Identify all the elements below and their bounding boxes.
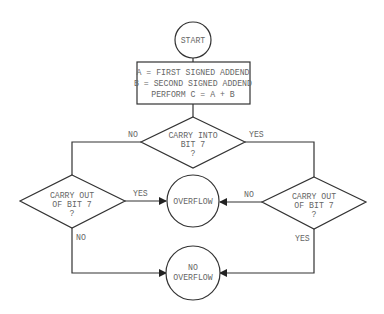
edge-into-yes	[245, 142, 314, 177]
edge-into-no	[72, 142, 141, 175]
overflow-label: OVERFLOW	[173, 197, 212, 206]
edge-label-left-no: NO	[76, 233, 86, 242]
carry-into-line-3: ?	[191, 149, 196, 158]
right-line-3: ?	[312, 210, 317, 219]
flowchart-canvas: START A = FIRST SIGNED ADDEND B = SECOND…	[0, 0, 384, 314]
process-line-2: B = SECOND SIGNED ADDEND	[134, 79, 252, 88]
process-box: A = FIRST SIGNED ADDEND B = SECOND SIGNE…	[134, 62, 252, 104]
carry-into-line-2: BIT 7	[181, 140, 206, 149]
process-line-1: A = FIRST SIGNED ADDEND	[136, 68, 249, 77]
no-overflow-line-1: NO	[188, 263, 198, 272]
left-line-1: CARRY OUT	[50, 191, 94, 200]
left-line-2: OF BIT 7	[52, 200, 91, 209]
edge-label-into-no: NO	[128, 130, 138, 139]
process-line-3: PERFORM C = A + B	[151, 90, 235, 99]
right-line-2: OF BIT 7	[294, 201, 333, 210]
left-line-3: ?	[70, 209, 75, 218]
edge-label-left-yes: YES	[133, 189, 148, 198]
carry-out-left-decision: CARRY OUT OF BIT 7 ?	[20, 175, 125, 228]
edge-left-no	[72, 228, 166, 273]
carry-out-right-decision: CARRY OUT OF BIT 7 ?	[262, 177, 366, 229]
edge-label-right-yes: YES	[295, 234, 310, 243]
carry-into-line-1: CARRY INTO	[168, 131, 217, 140]
right-line-1: CARRY OUT	[292, 192, 336, 201]
no-overflow-line-2: OVERFLOW	[173, 273, 212, 282]
edge-label-right-no: NO	[244, 190, 254, 199]
overflow-node: OVERFLOW	[167, 175, 219, 227]
carry-into-decision: CARRY INTO BIT 7 ?	[141, 117, 245, 168]
no-overflow-node: NO OVERFLOW	[166, 246, 220, 300]
start-label: START	[181, 36, 206, 45]
start-node: START	[175, 22, 211, 58]
edge-label-into-yes: YES	[249, 130, 264, 139]
